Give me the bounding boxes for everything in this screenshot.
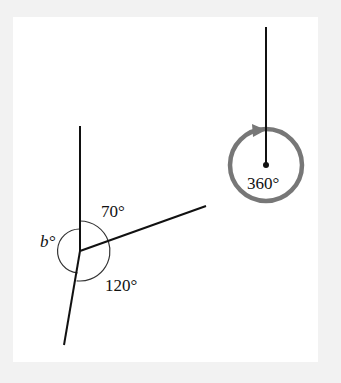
- label-angle-b: b°: [40, 233, 55, 250]
- angles-figure: [0, 0, 341, 383]
- label-360: 360°: [247, 175, 279, 192]
- label-angle-70: 70°: [101, 203, 125, 220]
- label-angle-120: 120°: [105, 277, 137, 294]
- arrowhead-icon: [252, 124, 266, 137]
- arc-70: [80, 221, 108, 241]
- ray-lower: [64, 251, 80, 345]
- ray-right: [80, 206, 206, 251]
- angles-at-point-diagram: [58, 126, 206, 345]
- center-point: [263, 162, 269, 168]
